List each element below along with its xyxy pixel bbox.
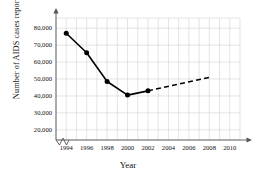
y-tick-label: 80,000 (16, 24, 52, 31)
x-tick-label: 2010 (218, 144, 242, 151)
axis-lines (53, 8, 252, 145)
y-tick-label: 20,000 (16, 126, 52, 133)
aids-cases-line-chart: Number of AIDS cases reported Year 20,00… (0, 0, 256, 179)
y-tick-label: 40,000 (16, 92, 52, 99)
y-tick-label: 60,000 (16, 58, 52, 65)
x-axis-title: Year (0, 160, 256, 170)
y-axis-title: Number of AIDS cases reported (12, 0, 21, 105)
y-tick-label: 50,000 (16, 75, 52, 82)
y-tick-label: 30,000 (16, 109, 52, 116)
y-tick-label: 70,000 (16, 41, 52, 48)
